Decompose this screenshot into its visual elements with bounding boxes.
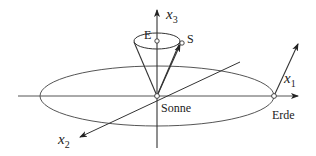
sun-label: Sonne [161, 101, 191, 115]
point-e-marker [155, 39, 159, 43]
orbit-diagram: x3 E S x1 Sonne Erde x2 [0, 0, 316, 156]
x2-label: x2 [57, 131, 70, 150]
x3-label: x3 [165, 6, 178, 25]
point-s-label: S [187, 32, 194, 46]
sun-marker [155, 94, 160, 99]
earth-label: Erde [272, 108, 295, 122]
earth-marker [272, 94, 277, 99]
x1-label: x1 [283, 70, 296, 89]
point-e-label: E [144, 28, 151, 42]
point-s-marker [180, 41, 184, 45]
